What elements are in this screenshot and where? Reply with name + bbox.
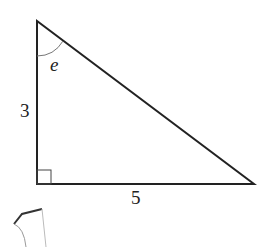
right-angle-marker <box>37 170 51 184</box>
stray-mark-tail <box>14 224 26 247</box>
stray-mark <box>14 209 42 224</box>
angle-label: e <box>50 54 58 75</box>
side-label-horizontal: 5 <box>131 187 141 208</box>
stray-mark-line <box>42 209 46 247</box>
side-label-vertical: 3 <box>20 100 30 121</box>
triangle-diagram: 3 e 5 <box>0 0 260 247</box>
triangle <box>37 21 254 184</box>
